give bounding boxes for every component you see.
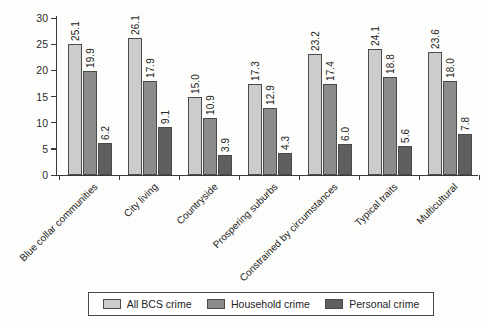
y-tick-label: 5 xyxy=(26,144,48,154)
bar xyxy=(443,81,457,175)
legend-item[interactable]: Personal crime xyxy=(325,299,419,310)
y-tick-mark xyxy=(51,44,56,45)
bar-value-label: 17.9 xyxy=(146,36,156,78)
bar xyxy=(278,153,292,176)
bar-value-label: 7.8 xyxy=(461,89,471,131)
legend-label: All BCS crime xyxy=(127,299,192,310)
bar-value-label: 4.3 xyxy=(281,108,291,150)
bar-value-label: 18.0 xyxy=(446,36,456,78)
y-tick-label: 0 xyxy=(26,170,48,180)
bar-value-label: 18.8 xyxy=(386,32,396,74)
bar-value-label: 15.0 xyxy=(191,52,201,94)
bar-value-label: 26.1 xyxy=(131,0,141,35)
bar-value-label: 17.3 xyxy=(251,39,261,81)
y-tick-mark xyxy=(51,70,56,71)
bar-value-label: 19.9 xyxy=(86,26,96,68)
y-tick-label: 15 xyxy=(26,92,48,102)
x-tick-mark xyxy=(299,175,300,180)
bar-group: 23.217.46.0 xyxy=(308,18,353,175)
bar-value-label: 3.9 xyxy=(221,110,231,152)
y-tick-label: 25 xyxy=(26,39,48,49)
bar xyxy=(368,49,382,175)
bar xyxy=(83,71,97,175)
x-tick-mark xyxy=(119,175,120,180)
bar-value-label: 23.6 xyxy=(431,7,441,49)
x-tick-mark xyxy=(239,175,240,180)
x-tick-mark xyxy=(359,175,360,180)
y-tick-mark xyxy=(51,148,56,149)
bar xyxy=(263,108,277,176)
y-tick-label: 10 xyxy=(26,118,48,128)
chart-legend: All BCS crimeHousehold crimePersonal cri… xyxy=(88,292,434,316)
bar xyxy=(383,77,397,175)
bar-value-label: 25.1 xyxy=(71,0,81,41)
legend-swatch xyxy=(325,299,343,309)
y-tick-mark xyxy=(51,122,56,123)
bar xyxy=(428,52,442,176)
y-tick-label: 30 xyxy=(26,13,48,23)
bar-chart: 051015202530 25.119.96.226.117.99.115.01… xyxy=(0,0,487,328)
bar xyxy=(68,44,82,175)
bar-value-label: 9.1 xyxy=(161,82,171,124)
bar-value-label: 6.0 xyxy=(341,99,351,141)
bar xyxy=(143,81,157,175)
bar xyxy=(188,97,202,176)
bar xyxy=(323,84,337,175)
x-tick-mark xyxy=(59,175,60,180)
y-tick-mark xyxy=(51,18,56,19)
x-tick-mark xyxy=(479,175,480,180)
bar xyxy=(338,144,352,175)
bar-value-label: 17.4 xyxy=(326,39,336,81)
bar-group: 15.010.93.9 xyxy=(188,18,233,175)
bar xyxy=(248,84,262,175)
legend-label: Household crime xyxy=(231,299,310,310)
bar-value-label: 24.1 xyxy=(371,4,381,46)
x-tick-mark xyxy=(419,175,420,180)
bar xyxy=(308,54,322,175)
bar-group: 25.119.96.2 xyxy=(68,18,113,175)
legend-swatch xyxy=(103,299,121,309)
x-tick-mark xyxy=(179,175,180,180)
bar-group: 23.618.07.8 xyxy=(428,18,473,175)
bar xyxy=(158,127,172,175)
bar-value-label: 10.9 xyxy=(206,73,216,115)
bar-value-label: 23.2 xyxy=(311,9,321,51)
bar xyxy=(458,134,472,175)
bar xyxy=(128,38,142,175)
bar-group: 26.117.99.1 xyxy=(128,18,173,175)
legend-swatch xyxy=(207,299,225,309)
legend-label: Personal crime xyxy=(349,299,419,310)
legend-item[interactable]: All BCS crime xyxy=(103,299,192,310)
bar xyxy=(203,118,217,175)
bar-value-label: 6.2 xyxy=(101,98,111,140)
y-tick-label: 20 xyxy=(26,65,48,75)
bar xyxy=(98,143,112,175)
bar-group: 17.312.94.3 xyxy=(248,18,293,175)
bar-value-label: 12.9 xyxy=(266,63,276,105)
y-tick-mark xyxy=(51,96,56,97)
y-tick-mark xyxy=(51,175,56,176)
bar-value-label: 5.6 xyxy=(401,101,411,143)
bar xyxy=(398,146,412,175)
plot-area: 25.119.96.226.117.99.115.010.93.917.312.… xyxy=(57,18,478,175)
bar-group: 24.118.85.6 xyxy=(368,18,413,175)
bar xyxy=(218,155,232,175)
legend-item[interactable]: Household crime xyxy=(207,299,310,310)
